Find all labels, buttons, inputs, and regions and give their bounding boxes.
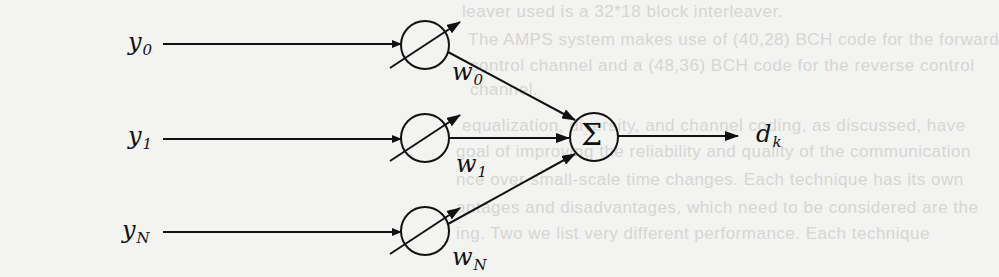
input-label-y1: y1: [128, 124, 152, 152]
input-label-yN: yN: [122, 218, 150, 246]
weight-label-wN: wN: [452, 245, 487, 273]
sigma-symbol: Σ: [581, 120, 602, 150]
input-label-y0: y0: [128, 30, 152, 58]
weight-label-w1: w1: [456, 152, 487, 180]
output-label-dk: dk: [756, 122, 781, 150]
weight-label-w0: w0: [452, 60, 483, 88]
